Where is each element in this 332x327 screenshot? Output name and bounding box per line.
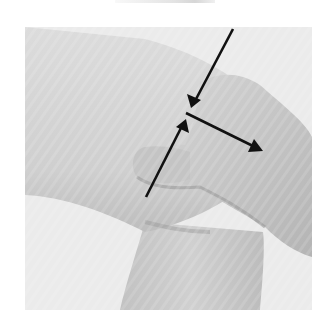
- photo-figure: [25, 27, 312, 310]
- cropped-caption: [115, 0, 215, 3]
- photo-illustration: [25, 27, 312, 310]
